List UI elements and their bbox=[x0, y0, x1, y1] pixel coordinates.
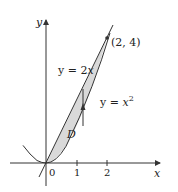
region-diagram: (2, 4) y = 2x y = x2 D y x 0 1 2 bbox=[0, 0, 178, 192]
parabola-equation-label: y = x2 bbox=[99, 94, 134, 109]
x-tick-label-2: 2 bbox=[104, 167, 110, 178]
intersection-point-marker bbox=[105, 36, 109, 40]
x-tick-label-0: 0 bbox=[49, 167, 55, 178]
line-equation-label: y = 2x bbox=[57, 64, 94, 77]
intersection-label: (2, 4) bbox=[111, 36, 141, 49]
region-label: D bbox=[66, 128, 76, 141]
x-axis-label: x bbox=[154, 167, 161, 180]
x-tick-label-1: 1 bbox=[74, 167, 80, 178]
y-axis-label: y bbox=[35, 16, 43, 29]
